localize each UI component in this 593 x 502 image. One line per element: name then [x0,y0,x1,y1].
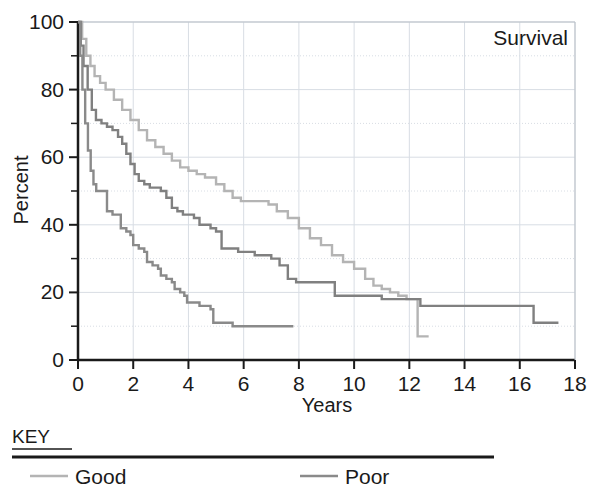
series-line-poor [78,22,558,323]
survival-chart-figure: 020406080100024681012141618 Survival Yea… [0,0,593,502]
key-entries: GoodPoor [30,465,389,488]
x-tick-label: 12 [398,372,421,395]
x-tick-label: 8 [293,372,305,395]
y-tick-label: 80 [41,78,64,101]
chart-canvas: 020406080100024681012141618 Survival Yea… [0,0,593,502]
x-tick-label: 16 [508,372,531,395]
y-tick-label: 100 [29,10,64,33]
key-legend: KEY GoodPoor [12,426,494,488]
y-tick-label: 40 [41,213,64,236]
series-line-good [78,22,429,336]
key-label-good: Good [75,465,126,488]
x-tick-label: 2 [127,372,139,395]
key-title: KEY [12,426,50,447]
corner-label: Survival [493,26,568,49]
y-axis-title: Percent [10,155,32,224]
axis-lines [78,22,575,360]
y-tick-label: 60 [41,145,64,168]
series-line-third [78,22,293,326]
grid-lines [78,22,575,360]
x-axis-title: Years [302,394,352,416]
x-tick-label: 4 [183,372,195,395]
axis-ticks [69,22,575,369]
x-tick-label: 0 [72,372,84,395]
data-series [78,22,558,336]
x-tick-label: 14 [453,372,477,395]
x-tick-label: 10 [342,372,365,395]
x-tick-label: 18 [563,372,586,395]
tick-labels: 020406080100024681012141618 [29,10,587,395]
key-label-poor: Poor [345,465,389,488]
y-tick-label: 20 [41,280,64,303]
x-tick-label: 6 [238,372,250,395]
y-tick-label: 0 [52,348,64,371]
